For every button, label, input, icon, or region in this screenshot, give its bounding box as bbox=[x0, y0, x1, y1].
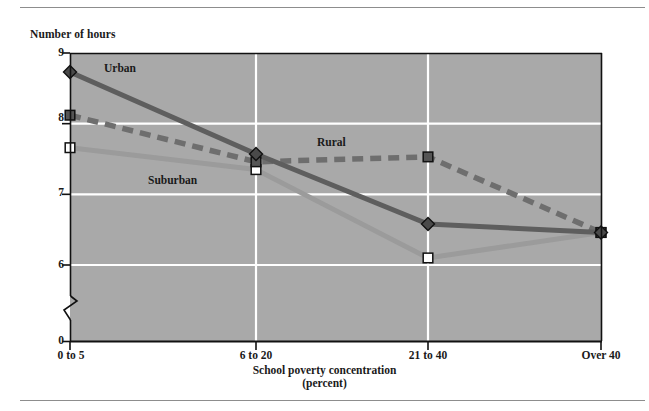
series-label-suburban: Suburban bbox=[148, 174, 197, 186]
plot-background bbox=[70, 53, 602, 341]
x-axis-title-line1: School poverty concentration bbox=[0, 364, 649, 377]
y-tick-label-9: 9 bbox=[38, 46, 64, 58]
x-tick-label-over-40: Over 40 bbox=[541, 349, 649, 361]
y-tick-label-0: 0 bbox=[38, 334, 64, 346]
y-tick-label-8: 8 bbox=[38, 111, 64, 123]
x-axis-title: School poverty concentration (percent) bbox=[0, 364, 649, 390]
series-label-rural: Rural bbox=[317, 136, 346, 148]
x-axis-title-line2: (percent) bbox=[0, 377, 649, 390]
x-tick-label-0-to-5: 0 to 5 bbox=[11, 349, 131, 361]
series-label-urban: Urban bbox=[104, 62, 136, 74]
data-point-suburban-2 bbox=[423, 253, 433, 263]
x-tick-label-21-to-40: 21 to 40 bbox=[368, 349, 488, 361]
y-tick-label-6: 6 bbox=[38, 258, 64, 270]
y-tick-label-7: 7 bbox=[38, 186, 64, 198]
x-tick-label-6-to-20: 6 to 20 bbox=[196, 349, 316, 361]
figure-container: Number of hours 9 8 7 6 0 0 to 5 bbox=[0, 0, 649, 411]
data-point-rural-2 bbox=[423, 152, 433, 162]
